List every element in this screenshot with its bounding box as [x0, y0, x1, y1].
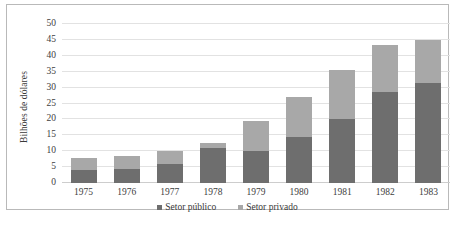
bar-1977[interactable]: 1977 [157, 151, 183, 183]
bar-segment-1979-setor-publico[interactable] [243, 151, 269, 183]
bar-segment-1979-setor-privado[interactable] [243, 121, 269, 151]
y-axis-title-label: Bilhões de dólares [19, 71, 29, 143]
bar-segment-1978-setor-publico[interactable] [200, 148, 226, 183]
bar-1982[interactable]: 1982 [372, 45, 398, 183]
x-axis-tick-1978: 1978 [203, 187, 222, 197]
bar-1980[interactable]: 1980 [286, 97, 312, 183]
bar-segment-1980-setor-publico[interactable] [286, 137, 312, 183]
bar-segment-1982-setor-privado[interactable] [372, 45, 398, 93]
x-axis-tick-1980: 1980 [290, 187, 309, 197]
bar-1981[interactable]: 1981 [329, 70, 355, 183]
gridline-50: 50 [62, 23, 450, 24]
x-axis-tick-1979: 1979 [247, 187, 266, 197]
legend-label-setor-publico: Setor público [165, 202, 216, 212]
bar-segment-1976-setor-privado[interactable] [114, 156, 140, 169]
bar-1983[interactable]: 1983 [415, 40, 441, 183]
bar-1979[interactable]: 1979 [243, 121, 269, 183]
bar-segment-1976-setor-publico[interactable] [114, 169, 140, 183]
bar-segment-1981-setor-publico[interactable] [329, 119, 355, 183]
gridline-45: 45 [62, 39, 450, 40]
legend-item-setor-publico: Setor público [157, 202, 216, 212]
bar-1978[interactable]: 1978 [200, 143, 226, 183]
x-axis-tick-1982: 1982 [376, 187, 395, 197]
x-axis-tick-1981: 1981 [333, 187, 352, 197]
chart-screenshot: Bilhões de dólares 051015202530354045501… [0, 0, 455, 231]
figure-caption [8, 219, 448, 231]
x-axis-tick-1977: 1977 [160, 187, 179, 197]
y-axis-tick-25: 25 [47, 98, 57, 108]
bar-segment-1978-setor-privado[interactable] [200, 143, 226, 148]
bar-segment-1980-setor-privado[interactable] [286, 97, 312, 137]
chart-frame: Bilhões de dólares 051015202530354045501… [6, 4, 449, 210]
chart-legend: Setor público Setor privado [7, 202, 448, 212]
bar-segment-1981-setor-privado[interactable] [329, 70, 355, 119]
y-axis-title: Bilhões de dólares [16, 29, 32, 184]
bar-segment-1975-setor-privado[interactable] [71, 158, 97, 171]
x-axis-tick-1976: 1976 [117, 187, 136, 197]
y-axis-tick-50: 50 [47, 18, 57, 28]
legend-label-setor-privado: Setor privado [246, 202, 297, 212]
y-axis-tick-15: 15 [47, 129, 57, 139]
bar-1975[interactable]: 1975 [71, 158, 97, 183]
bar-segment-1983-setor-privado[interactable] [415, 40, 441, 83]
y-axis-tick-45: 45 [47, 34, 57, 44]
bar-segment-1982-setor-publico[interactable] [372, 92, 398, 183]
bar-segment-1977-setor-publico[interactable] [157, 164, 183, 183]
bar-segment-1975-setor-publico[interactable] [71, 170, 97, 183]
x-axis-tick-1983: 1983 [419, 187, 438, 197]
legend-swatch-public-icon [157, 205, 162, 210]
y-axis-tick-5: 5 [51, 161, 56, 171]
bar-segment-1977-setor-privado[interactable] [157, 151, 183, 164]
legend-swatch-private-icon [238, 205, 243, 210]
plot-area: 0510152025303540455019751976197719781979… [62, 24, 450, 183]
y-axis-tick-35: 35 [47, 66, 57, 76]
y-axis-tick-0: 0 [51, 177, 56, 187]
y-axis-tick-40: 40 [47, 50, 57, 60]
y-axis-tick-10: 10 [47, 145, 57, 155]
legend-item-setor-privado: Setor privado [238, 202, 297, 212]
y-axis-tick-20: 20 [47, 113, 57, 123]
bar-segment-1983-setor-publico[interactable] [415, 83, 441, 183]
y-axis-tick-30: 30 [47, 82, 57, 92]
x-axis-tick-1975: 1975 [74, 187, 93, 197]
bar-1976[interactable]: 1976 [114, 156, 140, 183]
